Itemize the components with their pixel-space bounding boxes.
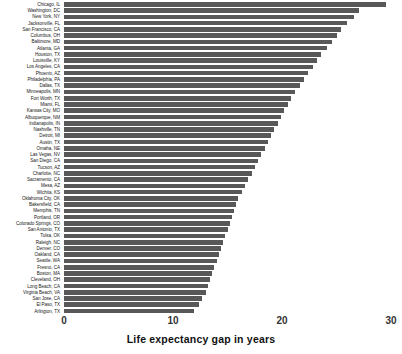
bar-long-beach-ca xyxy=(64,284,402,289)
bar-fill xyxy=(64,90,295,95)
bar-fill xyxy=(64,240,223,245)
bar-fill xyxy=(64,190,242,195)
bar-fill xyxy=(64,215,232,220)
bar-fill xyxy=(64,284,208,289)
bar-fill xyxy=(64,77,304,82)
bar-seattle-wa xyxy=(64,259,402,264)
bar-fill xyxy=(64,33,337,38)
bar-san-diego-ca xyxy=(64,159,402,164)
bar-fill xyxy=(64,290,206,295)
bar-fort-worth-tx xyxy=(64,96,402,101)
bar-arlington-tx xyxy=(64,309,402,314)
bar-fill xyxy=(64,309,194,314)
bar-fill xyxy=(64,302,199,307)
bar-fill xyxy=(64,121,278,126)
bar-fill xyxy=(64,65,313,70)
bar-tucson-az xyxy=(64,165,402,170)
bar-fill xyxy=(64,202,236,207)
bar-fill xyxy=(64,221,230,226)
bar-omaha-ne xyxy=(64,146,402,151)
bar-philadelphia-pa xyxy=(64,77,402,82)
bar-fill xyxy=(64,159,258,164)
x-tick-label: 20 xyxy=(277,315,288,326)
bar-fill xyxy=(64,246,221,251)
bar-fill xyxy=(64,196,238,201)
bar-kansas-city-mo xyxy=(64,108,402,113)
bar-cleveland-oh xyxy=(64,277,402,282)
bar-columbus-oh xyxy=(64,33,402,38)
bar-wichita-ks xyxy=(64,190,402,195)
bar-el-paso-tx xyxy=(64,302,402,307)
category-label: Arlington, TX xyxy=(0,309,62,315)
bar-sacramento-ca xyxy=(64,177,402,182)
x-tick-label: 10 xyxy=(167,315,178,326)
bar-phoenix-az xyxy=(64,71,402,76)
bar-fresno-ca xyxy=(64,265,402,270)
bar-albuquerque-nm xyxy=(64,115,402,120)
bar-mesa-az xyxy=(64,184,402,189)
bar-fill xyxy=(64,83,300,88)
x-tick-label: 0 xyxy=(61,315,67,326)
bar-fill xyxy=(64,165,255,170)
bar-houston-tx xyxy=(64,52,402,57)
bar-fill xyxy=(64,2,386,7)
bar-new-york-ny xyxy=(64,15,402,20)
bar-colorado-springs-co xyxy=(64,221,402,226)
bar-fill xyxy=(64,46,327,51)
bar-chicago-il xyxy=(64,2,402,7)
bar-fill xyxy=(64,227,228,232)
bar-oklahoma-city-ok xyxy=(64,196,402,201)
bar-fill xyxy=(64,96,291,101)
bar-baltimore-md xyxy=(64,40,402,45)
bar-fill xyxy=(64,8,359,13)
bar-fill xyxy=(64,40,332,45)
bar-fill xyxy=(64,277,210,282)
life-expectancy-gap-bar-chart: Chicago, ILWashington, DCNew York, NYJac… xyxy=(0,0,402,354)
bar-tulsa-ok xyxy=(64,234,402,239)
bar-boston-ma xyxy=(64,271,402,276)
bar-san-francisco-ca xyxy=(64,27,402,32)
bar-fill xyxy=(64,133,271,138)
bar-bakersfield-ca xyxy=(64,202,402,207)
bar-fill xyxy=(64,21,347,26)
bar-jacksonville-fl xyxy=(64,21,402,26)
bar-austin-tx xyxy=(64,140,402,145)
bar-dallas-tx xyxy=(64,83,402,88)
bar-virginia-beach-va xyxy=(64,290,402,295)
bar-washington-dc xyxy=(64,8,402,13)
bar-atlanta-ga xyxy=(64,46,402,51)
bar-las-vegas-nv xyxy=(64,152,402,157)
bar-memphis-tn xyxy=(64,209,402,214)
bar-portland-or xyxy=(64,215,402,220)
bar-los-angeles-ca xyxy=(64,65,402,70)
bar-minneapolis-mn xyxy=(64,90,402,95)
x-tick-label: 30 xyxy=(386,315,397,326)
bar-fill xyxy=(64,177,248,182)
bar-detroit-mi xyxy=(64,133,402,138)
bar-fill xyxy=(64,296,202,301)
bar-fill xyxy=(64,115,281,120)
bar-fill xyxy=(64,15,354,20)
bar-fill xyxy=(64,108,284,113)
bar-charlotte-nc xyxy=(64,171,402,176)
bar-miami-fl xyxy=(64,102,402,107)
bar-fill xyxy=(64,71,308,76)
bar-fill xyxy=(64,152,261,157)
bar-fill xyxy=(64,252,219,257)
bar-fill xyxy=(64,265,214,270)
bar-louisville-ky xyxy=(64,58,402,63)
x-axis-ticks: 0102030 xyxy=(64,315,402,331)
bar-indianapolis-in xyxy=(64,121,402,126)
bar-fill xyxy=(64,234,225,239)
category-axis-labels: Chicago, ILWashington, DCNew York, NYJac… xyxy=(0,2,62,315)
bar-fill xyxy=(64,146,265,151)
bar-nashville-tn xyxy=(64,127,402,132)
bar-fill xyxy=(64,140,268,145)
bar-fill xyxy=(64,52,321,57)
bar-fill xyxy=(64,171,252,176)
x-axis-title: Life expectancy gap in years xyxy=(0,333,402,345)
bar-fill xyxy=(64,27,341,32)
bar-oakland-ca xyxy=(64,252,402,257)
bar-san-jose-ca xyxy=(64,296,402,301)
bar-fill xyxy=(64,102,288,107)
